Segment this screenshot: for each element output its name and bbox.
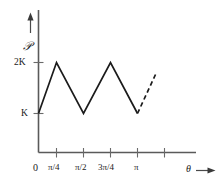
power-waveform-solid xyxy=(39,63,138,114)
x-tick-label-pi: π xyxy=(134,163,139,172)
x-tick-label-pi-over-4: π/4 xyxy=(48,163,60,172)
y-tick-label-k: K xyxy=(21,109,28,119)
x-tick-label-3pi-over-4: 3π/4 xyxy=(98,163,114,172)
figure-root: 𝒫 2K K 0 π/4 π/2 3π/4 π θ xyxy=(0,0,221,190)
y-tick-label-2k: 2K xyxy=(14,58,26,68)
y-axis-label-script-p: 𝒫 xyxy=(23,40,32,52)
y-axis-arrow-icon xyxy=(27,13,33,34)
origin-label-zero: 0 xyxy=(33,163,38,173)
x-axis-arrow-icon xyxy=(196,167,216,173)
x-axis-label-theta: θ xyxy=(186,164,191,174)
x-tick-label-pi-over-2: π/2 xyxy=(75,163,87,172)
power-waveform-dashed-continuation xyxy=(138,75,156,114)
